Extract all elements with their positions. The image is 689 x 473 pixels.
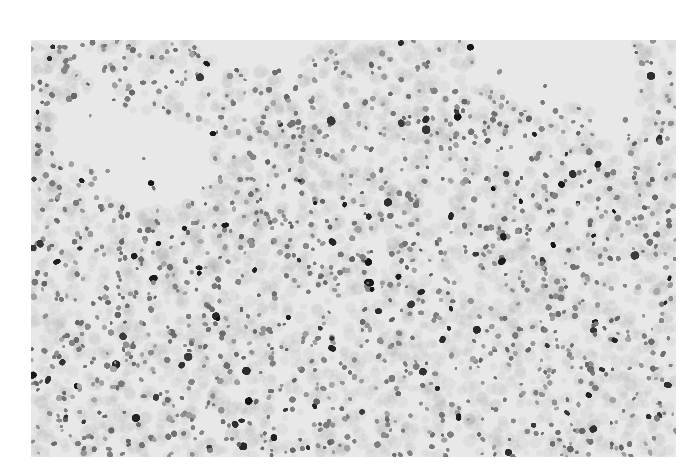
tissue-texture xyxy=(31,40,676,457)
micrograph-image xyxy=(31,40,676,457)
